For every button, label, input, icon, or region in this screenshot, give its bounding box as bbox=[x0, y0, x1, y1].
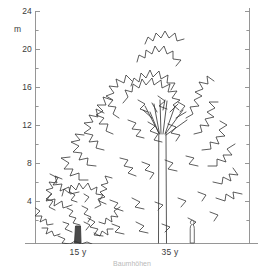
chart-canvas bbox=[0, 0, 264, 266]
y-tick-label-4: 4 bbox=[14, 197, 32, 206]
y-tick-label-16: 16 bbox=[14, 83, 32, 92]
y-tick-label-20: 20 bbox=[14, 45, 32, 54]
y-tick-label-12: 12 bbox=[14, 121, 32, 130]
tree-35y-crown bbox=[46, 31, 242, 236]
x-tick-label-15y: 15 y bbox=[50, 248, 106, 257]
tree-height-figure: m 24 20 16 12 8 4 15 y 35 y Baumhöhen bbox=[0, 0, 264, 266]
y-axis-unit-label: m bbox=[14, 25, 21, 34]
y-axis-ticks-left bbox=[36, 12, 41, 221]
human-scale-figure bbox=[190, 220, 194, 243]
tree-35y bbox=[46, 31, 242, 243]
y-tick-label-8: 8 bbox=[14, 159, 32, 168]
tree-15y-trunk bbox=[75, 226, 82, 243]
figure-caption: Baumhöhen bbox=[0, 260, 264, 266]
x-tick-label-35y: 35 y bbox=[142, 248, 198, 257]
y-tick-label-24: 24 bbox=[14, 7, 32, 16]
tree-15y bbox=[34, 176, 120, 244]
y-axis-ticks-right bbox=[245, 12, 250, 221]
